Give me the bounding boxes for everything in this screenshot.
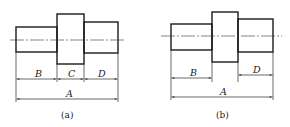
dim-label-c: C bbox=[68, 68, 76, 79]
dim-label-d: D bbox=[97, 68, 106, 79]
dim-label-a: A bbox=[219, 86, 227, 97]
figure-a: B C D A (a) bbox=[10, 14, 126, 120]
dim-label-a: A bbox=[65, 88, 73, 99]
stepped-shaft-b bbox=[161, 12, 282, 62]
left-shaft-section bbox=[16, 27, 57, 52]
middle-collar bbox=[57, 14, 84, 64]
dim-label-d: D bbox=[252, 64, 261, 75]
figure-caption-b: (b) bbox=[216, 110, 229, 120]
right-shaft-section bbox=[238, 19, 273, 52]
middle-collar bbox=[212, 12, 238, 62]
figure-caption-a: (a) bbox=[61, 110, 73, 120]
stepped-shaft-a bbox=[10, 14, 126, 64]
figure-b: B D A (b) bbox=[161, 12, 282, 120]
dim-label-b: B bbox=[189, 67, 197, 78]
left-shaft-section bbox=[171, 24, 212, 50]
diagram-canvas: B C D A (a) B D A (b) bbox=[0, 0, 290, 127]
dim-label-b: B bbox=[34, 68, 42, 79]
right-shaft-section bbox=[84, 22, 118, 53]
